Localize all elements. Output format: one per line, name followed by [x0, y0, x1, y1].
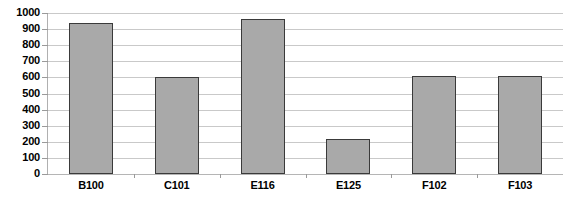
x-axis-tick — [220, 174, 221, 178]
y-axis-tick — [42, 61, 48, 62]
y-axis-labels: 01002003004005006007008009001000 — [0, 0, 40, 207]
x-axis-label-c101: C101 — [134, 178, 220, 192]
x-axis-label-e116: E116 — [220, 178, 306, 192]
x-axis-tick — [306, 174, 307, 178]
bar-e116 — [241, 19, 285, 174]
x-axis-label-f103: F103 — [477, 178, 563, 192]
y-axis-tick-label: 800 — [0, 39, 40, 50]
y-axis-tick — [42, 29, 48, 30]
y-axis-tick — [42, 174, 48, 175]
y-axis-tick — [42, 110, 48, 111]
x-axis-labels: B100C101E116E125F102F103 — [48, 178, 563, 200]
y-axis-tick-label: 700 — [0, 55, 40, 66]
x-axis-tick — [391, 174, 392, 178]
y-axis-tick-label: 600 — [0, 71, 40, 82]
bar-c101 — [155, 77, 199, 174]
x-axis-label-e125: E125 — [306, 178, 392, 192]
bar-f103 — [498, 76, 542, 174]
y-axis-tick — [42, 77, 48, 78]
y-axis-tick — [42, 13, 48, 14]
y-axis-tick — [42, 45, 48, 46]
x-axis-label-b100: B100 — [48, 178, 134, 192]
bar-b100 — [69, 23, 113, 174]
y-axis-tick-label: 0 — [0, 168, 40, 179]
y-axis-tick-label: 500 — [0, 88, 40, 99]
y-axis-tick-label: 900 — [0, 23, 40, 34]
y-axis-tick — [42, 142, 48, 143]
y-axis-tick — [42, 94, 48, 95]
y-axis-tick — [42, 158, 48, 159]
y-axis-tick — [42, 126, 48, 127]
bar-f102 — [412, 76, 456, 174]
y-axis-tick-label: 100 — [0, 152, 40, 163]
x-axis-tick — [477, 174, 478, 178]
y-axis-tick-label: 300 — [0, 120, 40, 131]
y-axis-tick-label: 1000 — [0, 7, 40, 18]
bar-e125 — [326, 139, 370, 174]
x-axis-tick — [134, 174, 135, 178]
bar-chart: 01002003004005006007008009001000 B100C10… — [0, 0, 579, 207]
y-axis-tick-label: 200 — [0, 136, 40, 147]
x-axis-label-f102: F102 — [391, 178, 477, 192]
bars-layer — [48, 13, 563, 174]
y-axis-tick-label: 400 — [0, 104, 40, 115]
